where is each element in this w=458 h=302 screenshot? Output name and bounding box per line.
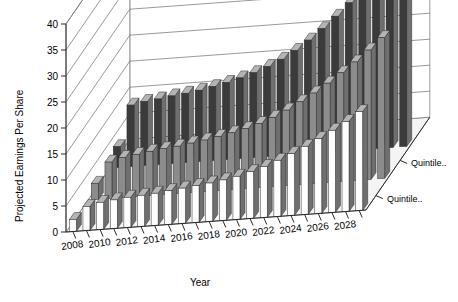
bar bbox=[400, 0, 412, 147]
y-axis-tick-label: 25 bbox=[47, 97, 59, 108]
y-axis-tick-label: 20 bbox=[47, 123, 59, 134]
bar bbox=[274, 153, 286, 216]
y-axis-tick-label: 10 bbox=[47, 175, 59, 186]
bar bbox=[105, 155, 117, 198]
bar bbox=[97, 195, 109, 229]
bar bbox=[288, 147, 300, 216]
bar bbox=[247, 165, 259, 219]
bar bbox=[233, 169, 245, 219]
y-axis-tick-label: 0 bbox=[52, 227, 58, 238]
x-axis-tick-label: 2010 bbox=[88, 236, 112, 250]
bar bbox=[178, 181, 190, 223]
chart-container: Projected Earnings Per Share 05101520253… bbox=[0, 0, 458, 302]
x-axis-tick-label: 2008 bbox=[61, 238, 85, 252]
y-axis-tick-label: 5 bbox=[52, 201, 58, 212]
y-axis-tick-label: 35 bbox=[47, 45, 59, 56]
bar bbox=[315, 132, 327, 214]
x-axis-tick-label: 2028 bbox=[333, 218, 357, 232]
bar bbox=[206, 176, 218, 221]
bar bbox=[260, 160, 272, 218]
x-axis-tick-label: 2024 bbox=[279, 222, 303, 236]
x-axis-tick-label: 2022 bbox=[251, 224, 275, 238]
bar bbox=[124, 190, 136, 227]
bar bbox=[138, 188, 150, 226]
bar bbox=[151, 186, 163, 225]
x-axis-title: Year bbox=[190, 277, 211, 288]
bar bbox=[356, 105, 368, 211]
bar bbox=[301, 139, 313, 214]
bar-chart-3d: 0510152025303540200820102012201420162018… bbox=[0, 0, 458, 302]
bar bbox=[378, 31, 390, 179]
bar bbox=[219, 173, 231, 221]
legend-label: Quintile.. bbox=[387, 194, 423, 204]
bar bbox=[328, 123, 340, 212]
bar bbox=[83, 200, 95, 231]
bar bbox=[165, 184, 177, 225]
bar bbox=[110, 193, 122, 229]
x-axis-tick-label: 2026 bbox=[306, 220, 330, 234]
x-axis-tick-label: 2014 bbox=[142, 232, 166, 246]
x-axis-tick-label: 2020 bbox=[224, 226, 248, 240]
y-axis-tick-label: 40 bbox=[47, 19, 59, 30]
legend-label: Quintile.. bbox=[411, 158, 447, 168]
y-axis-tick-label: 15 bbox=[47, 149, 59, 160]
x-axis-tick-label: 2012 bbox=[115, 234, 139, 248]
bar bbox=[342, 115, 354, 212]
y-axis-tick-label: 30 bbox=[47, 71, 59, 82]
x-axis-tick-label: 2016 bbox=[170, 230, 194, 244]
bar bbox=[192, 179, 204, 223]
x-axis-tick-label: 2018 bbox=[197, 228, 221, 242]
